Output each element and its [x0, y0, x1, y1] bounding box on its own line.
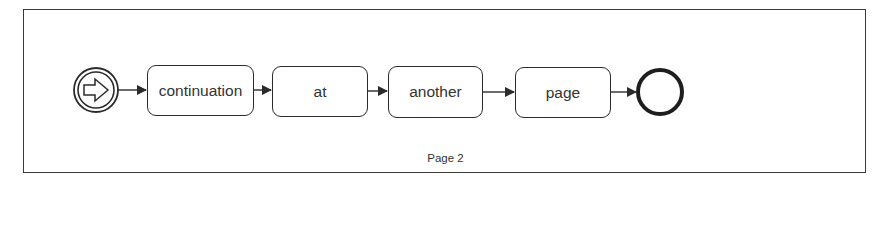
task-another[interactable]: another: [388, 66, 483, 118]
task-page[interactable]: page: [515, 67, 611, 118]
start-event[interactable]: [74, 68, 118, 112]
task-label: page: [546, 84, 580, 102]
task-at[interactable]: at: [272, 66, 368, 117]
end-event[interactable]: [638, 70, 682, 114]
page-label: Page 2: [0, 152, 891, 164]
task-label: continuation: [159, 82, 243, 100]
task-label: another: [409, 83, 462, 101]
task-label: at: [314, 83, 327, 101]
task-continuation[interactable]: continuation: [147, 65, 254, 116]
